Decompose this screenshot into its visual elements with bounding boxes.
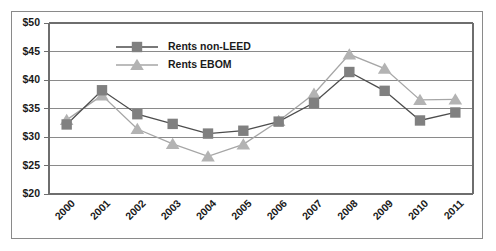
x-tick-label: 2003 <box>158 197 183 222</box>
data-point-marker <box>343 48 357 59</box>
gridlines-group <box>49 23 473 166</box>
data-point-marker <box>344 67 354 77</box>
data-point-marker <box>378 62 392 73</box>
data-point-marker <box>273 116 283 126</box>
x-tick-label: 2008 <box>335 197 360 222</box>
legend-marker <box>132 42 142 52</box>
x-tick-label: 2004 <box>193 197 218 222</box>
data-point-marker <box>379 86 389 96</box>
x-tick-label: 2002 <box>123 197 148 222</box>
data-point-marker <box>166 138 180 149</box>
x-tick-label: 2001 <box>87 197 112 222</box>
y-tick-label: $20 <box>22 187 40 199</box>
chart-figure: $20$25$30$35$40$45$50 200020012002200320… <box>11 11 483 239</box>
data-point-marker <box>132 109 142 119</box>
data-point-marker <box>415 115 425 125</box>
data-point-marker <box>167 119 177 129</box>
data-point-marker <box>97 85 107 95</box>
x-tick-label: 2000 <box>52 197 77 222</box>
y-tick-label: $25 <box>22 159 40 171</box>
y-tick-label: $45 <box>22 45 40 57</box>
y-axis-tick-labels: $20$25$30$35$40$45$50 <box>22 16 40 199</box>
data-point-marker <box>61 119 71 129</box>
x-axis-tick-labels: 2000200120022003200420052006200720082009… <box>52 197 466 222</box>
y-tick-label: $35 <box>22 102 40 114</box>
x-tick-label: 2009 <box>370 197 395 222</box>
data-point-marker <box>238 126 248 136</box>
data-point-marker <box>237 138 251 149</box>
x-tick-label: 2007 <box>299 197 324 222</box>
series-line <box>67 72 456 134</box>
chart-legend: Rents non-LEEDRents EBOM <box>116 40 251 70</box>
x-tick-label: 2005 <box>229 197 254 222</box>
data-point-marker <box>450 107 460 117</box>
x-tick-label: 2006 <box>264 197 289 222</box>
data-point-marker <box>203 128 213 138</box>
data-point-marker <box>309 98 319 108</box>
data-point-marker <box>201 150 215 161</box>
legend-label: Rents EBOM <box>168 58 232 70</box>
legend-label: Rents non-LEED <box>168 40 251 52</box>
y-tick-label: $50 <box>22 16 40 28</box>
x-tick-label: 2011 <box>441 197 466 222</box>
y-tick-label: $30 <box>22 130 40 142</box>
x-tick-label: 2010 <box>405 197 430 222</box>
rents-line-chart: $20$25$30$35$40$45$50 200020012002200320… <box>12 12 482 238</box>
y-tick-label: $40 <box>22 73 40 85</box>
tickmarks-group <box>44 23 49 194</box>
